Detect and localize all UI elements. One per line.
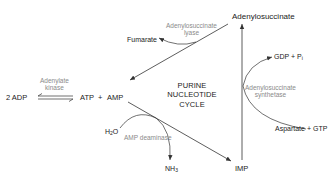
fumarate-label: Fumarate [127, 36, 157, 43]
adp-label: 2 ADP [6, 94, 27, 102]
amp-deaminase-label: AMP deaminase [124, 134, 172, 141]
imp-label: IMP [235, 165, 248, 173]
amp-label: AMP [107, 94, 123, 102]
adenylosuccinate-lyase-label: Adenylosuccinate lyase [166, 22, 217, 37]
atp-label: ATP [80, 94, 94, 102]
cycle-title: PURINE NUCLEOTIDE CYCLE [162, 81, 222, 109]
h2o-label: H2O [105, 128, 118, 136]
adenylosuccinate-label: Adenylosuccinate [232, 13, 295, 21]
aspartate-gtp-label: Aspartate + GTP [275, 125, 327, 132]
plus-sign: + [98, 94, 102, 102]
gdp-pi-label: GDP + Pi [274, 53, 303, 61]
deaminase-arrow [128, 102, 231, 161]
adenylate-kinase-label: Adenylate kinase [40, 77, 69, 92]
adenylosuccinate-synthetase-label: Adenylosuccinate synthetase [245, 84, 296, 99]
fumarate-branch-arrow [159, 38, 196, 44]
nh3-label: NH3 [165, 165, 178, 173]
